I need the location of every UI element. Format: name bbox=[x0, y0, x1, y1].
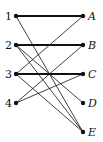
node-label-2: 2 bbox=[5, 39, 12, 52]
node-D bbox=[81, 101, 85, 105]
node-2 bbox=[14, 43, 18, 47]
edge-3-E bbox=[16, 74, 83, 132]
node-label-B: B bbox=[87, 39, 96, 52]
edges-layer bbox=[16, 16, 83, 132]
bipartite-graph: 1234ABCDE bbox=[0, 0, 103, 142]
node-4 bbox=[14, 101, 18, 105]
node-3 bbox=[14, 72, 18, 76]
node-label-A: A bbox=[87, 10, 96, 23]
node-C bbox=[81, 72, 85, 76]
node-B bbox=[81, 43, 85, 47]
node-label-3: 3 bbox=[5, 68, 12, 81]
node-1 bbox=[14, 14, 18, 18]
node-label-D: D bbox=[87, 97, 97, 110]
edge-4-C bbox=[16, 74, 83, 103]
node-label-C: C bbox=[88, 68, 97, 81]
node-label-E: E bbox=[87, 126, 96, 139]
node-label-4: 4 bbox=[5, 97, 12, 110]
node-A bbox=[81, 14, 85, 18]
node-E bbox=[81, 130, 85, 134]
node-label-1: 1 bbox=[5, 10, 12, 23]
